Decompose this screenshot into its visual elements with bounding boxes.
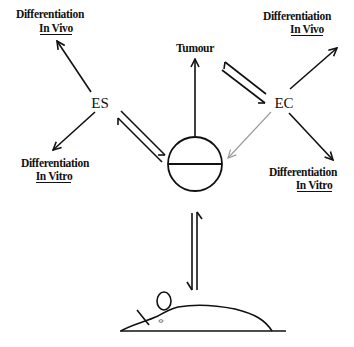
label-line2: In Vitro <box>296 179 333 191</box>
label-es-differentiation-in-vivo: Differentiation In Vivo <box>16 8 85 35</box>
blastocyst <box>168 137 222 191</box>
arrow-ec-to-blastocyst <box>228 112 271 158</box>
label-tumour: Tumour <box>176 42 214 54</box>
mouse-ear <box>157 292 171 310</box>
reversible-arrow-blastocyst-mouse <box>187 212 202 290</box>
arrow-line <box>121 111 165 155</box>
label-line2: In Vivo <box>290 23 325 35</box>
arrow-es-to-in-vivo <box>57 41 91 92</box>
arrow-line <box>222 70 265 103</box>
label-line1: Differentiation <box>16 8 85 20</box>
node-es: ES <box>91 95 109 111</box>
label-line1: Differentiation <box>269 166 338 178</box>
reversible-arrow-es-blastocyst <box>118 111 165 162</box>
label-ec-differentiation-in-vivo: Differentiation In Vivo <box>263 10 332 36</box>
arrow-ec-to-in-vivo <box>290 48 337 89</box>
arrow-es-to-in-vitro <box>53 112 95 150</box>
mouse-eye <box>159 320 163 323</box>
arrow-barb <box>224 62 225 69</box>
label-line1: Differentiation <box>21 157 90 169</box>
label-line2: In Vitro <box>36 170 73 182</box>
cell-lineage-diagram: Differentiation In Vivo ES Differentiati… <box>0 0 354 347</box>
arrow-line <box>118 118 162 162</box>
mouse <box>120 292 286 331</box>
node-ec: EC <box>274 95 293 111</box>
label-line1: Differentiation <box>263 10 332 22</box>
reversible-arrow-blastocyst-ec <box>222 62 266 103</box>
label-ec-differentiation-in-vitro: Differentiation In Vitro <box>269 166 338 192</box>
label-es-differentiation-in-vitro: Differentiation In Vitro <box>21 157 90 183</box>
arrow-ec-to-in-vitro <box>289 113 333 160</box>
label-line2: In Vivo <box>39 22 74 34</box>
